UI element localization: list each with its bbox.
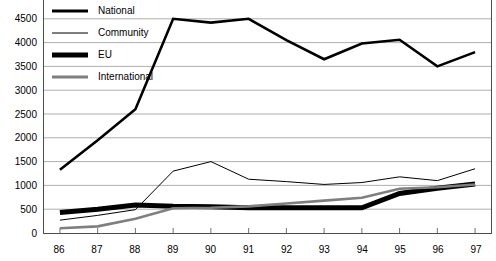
legend-item-national[interactable]: National [52,0,192,22]
legend-line-swatch-icon [52,28,88,38]
legend-item-label: EU [98,50,112,60]
y-axis-tick-label: 3000 [15,86,37,96]
x-axis-tick-label: 89 [167,245,178,255]
x-axis-tick-label: 96 [433,245,444,255]
legend-item-international[interactable]: International [52,66,192,88]
x-axis-tick-label: 86 [53,245,64,255]
x-axis-tick-label: 93 [319,245,330,255]
y-axis-tick-label: 500 [20,205,37,215]
legend-item-label: International [98,72,153,82]
x-axis-tick-label: 90 [205,245,216,255]
x-axis-tick-label: 97 [470,245,481,255]
x-axis-ticks [60,228,475,233]
x-axis-tick-label: 92 [281,245,292,255]
line-chart: 0500100015002000250030003500400045005000… [0,0,496,261]
y-axis-tick-label: 3500 [15,62,37,72]
y-axis-tick-label: 4000 [15,38,37,48]
legend-item-label: Community [98,28,149,38]
y-axis-tick-label: 1500 [15,157,37,167]
x-axis-labels: 868788899091929394959697 [43,240,492,260]
y-axis-tick-label: 2500 [15,110,37,120]
y-axis-tick-label: 1000 [15,181,37,191]
y-axis-labels: 0500100015002000250030003500400045005000 [0,0,42,261]
legend-item-label: National [98,6,135,16]
y-axis-tick-label: 4500 [15,14,37,24]
x-axis-tick-label: 95 [395,245,406,255]
x-axis-tick-label: 87 [91,245,102,255]
legend-line-swatch-icon [52,6,88,16]
x-axis-tick-label: 91 [243,245,254,255]
y-axis-tick-label: 0 [31,229,37,239]
legend-line-swatch-icon [52,72,88,82]
legend-item-eu[interactable]: EU [52,44,192,66]
legend-item-community[interactable]: Community [52,22,192,44]
legend-line-swatch-icon [52,50,88,60]
y-axis-tick-label: 2000 [15,133,37,143]
x-axis-tick-label: 94 [357,245,368,255]
chart-legend: NationalCommunityEUInternational [52,0,192,88]
x-axis-tick-label: 88 [129,245,140,255]
